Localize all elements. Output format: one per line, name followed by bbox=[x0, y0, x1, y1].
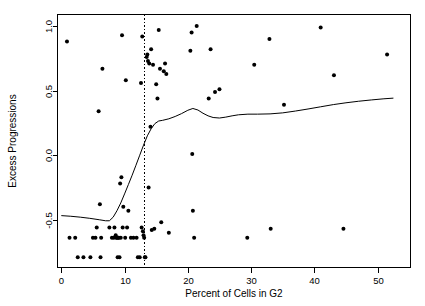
data-point bbox=[100, 67, 104, 71]
data-point bbox=[118, 255, 122, 259]
data-point bbox=[68, 236, 72, 240]
data-point bbox=[157, 28, 161, 32]
data-point bbox=[126, 209, 130, 213]
data-point bbox=[141, 229, 145, 233]
data-point bbox=[135, 236, 139, 240]
data-point bbox=[269, 227, 273, 231]
data-point bbox=[140, 225, 144, 229]
data-point bbox=[319, 25, 323, 29]
data-point bbox=[121, 225, 125, 229]
data-point bbox=[167, 231, 171, 235]
data-point bbox=[121, 205, 125, 209]
data-point bbox=[158, 67, 162, 71]
data-point bbox=[332, 73, 336, 77]
data-point bbox=[191, 209, 195, 213]
x-tick-label: 0 bbox=[59, 275, 64, 286]
x-tick-label: 30 bbox=[246, 275, 257, 286]
y-tick-label: 0.5 bbox=[43, 85, 54, 98]
y-tick-label: 1.0 bbox=[43, 20, 54, 33]
data-point bbox=[120, 33, 124, 37]
data-point bbox=[119, 236, 123, 240]
chart-background bbox=[0, 0, 425, 306]
data-point bbox=[188, 49, 192, 53]
data-point bbox=[154, 82, 158, 86]
data-point bbox=[97, 109, 101, 113]
data-point bbox=[147, 62, 151, 66]
x-tick-label: 50 bbox=[373, 275, 384, 286]
chart-canvas: 01020304050 -0.50.00.51.0 Percent of Cel… bbox=[0, 0, 425, 306]
data-point bbox=[98, 202, 102, 206]
data-point bbox=[140, 34, 144, 38]
data-point bbox=[73, 236, 77, 240]
y-tick-label: -0.5 bbox=[43, 212, 54, 228]
y-axis-title: Excess Progressions bbox=[7, 94, 18, 187]
data-point bbox=[112, 225, 116, 229]
data-point bbox=[107, 225, 111, 229]
data-point bbox=[385, 53, 389, 57]
scatter-plot-figure: 01020304050 -0.50.00.51.0 Percent of Cel… bbox=[0, 0, 425, 306]
data-point bbox=[143, 255, 147, 259]
data-point bbox=[149, 47, 153, 51]
data-point bbox=[195, 24, 199, 28]
data-point bbox=[282, 103, 286, 107]
data-point bbox=[267, 37, 271, 41]
data-point bbox=[99, 236, 103, 240]
data-point bbox=[155, 96, 159, 100]
data-point bbox=[142, 236, 146, 240]
data-point bbox=[207, 96, 211, 100]
x-axis-title: Percent of Cells in G2 bbox=[185, 288, 283, 299]
data-point bbox=[123, 236, 127, 240]
data-point bbox=[151, 63, 155, 67]
data-point bbox=[145, 53, 149, 57]
data-point bbox=[65, 40, 69, 44]
data-point bbox=[118, 182, 122, 186]
data-point bbox=[95, 225, 99, 229]
data-point bbox=[341, 227, 345, 231]
data-point bbox=[124, 78, 128, 82]
data-point bbox=[93, 236, 97, 240]
data-point bbox=[99, 255, 103, 259]
data-point bbox=[76, 255, 80, 259]
data-point bbox=[139, 81, 143, 85]
data-point bbox=[148, 125, 152, 129]
data-point bbox=[88, 255, 92, 259]
data-point bbox=[252, 63, 256, 67]
data-point bbox=[213, 90, 217, 94]
data-point bbox=[192, 236, 196, 240]
data-point bbox=[190, 31, 194, 35]
data-point bbox=[163, 62, 167, 66]
data-point bbox=[159, 220, 163, 224]
x-tick-label: 40 bbox=[309, 275, 320, 286]
data-point bbox=[217, 87, 221, 91]
data-point bbox=[119, 175, 123, 179]
data-point bbox=[125, 225, 129, 229]
data-point bbox=[190, 152, 194, 156]
data-point bbox=[164, 72, 168, 76]
y-tick-label: 0.0 bbox=[43, 149, 54, 162]
x-tick-label: 10 bbox=[120, 275, 131, 286]
data-point bbox=[81, 255, 85, 259]
data-point bbox=[245, 236, 249, 240]
data-point bbox=[152, 227, 156, 231]
data-point bbox=[138, 255, 142, 259]
x-tick-label: 20 bbox=[183, 275, 194, 286]
data-point bbox=[147, 185, 151, 189]
data-point bbox=[209, 47, 213, 51]
